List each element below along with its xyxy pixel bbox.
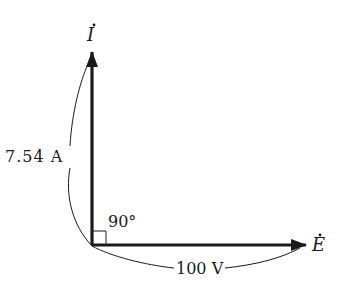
current-magnitude-label: 7.54 A	[5, 147, 63, 166]
voltage-magnitude-label: 100 V	[176, 259, 224, 278]
svg-text:I: I	[86, 24, 95, 45]
phasor-diagram: I E 7.54 A 100 V 90°	[0, 0, 346, 294]
right-angle-marker	[92, 231, 106, 245]
voltage-magnitude-arc-right	[225, 248, 300, 268]
angle-label: 90°	[108, 212, 136, 231]
phasor-dot-icon	[93, 24, 96, 27]
svg-text:E: E	[311, 234, 325, 255]
voltage-symbol-label: E	[311, 234, 325, 255]
voltage-magnitude-arc-left	[92, 246, 174, 268]
current-symbol-label: I	[86, 24, 95, 45]
phasor-dot-icon	[319, 234, 322, 237]
current-magnitude-arc-upper	[70, 64, 88, 146]
current-magnitude-arc	[68, 168, 92, 246]
